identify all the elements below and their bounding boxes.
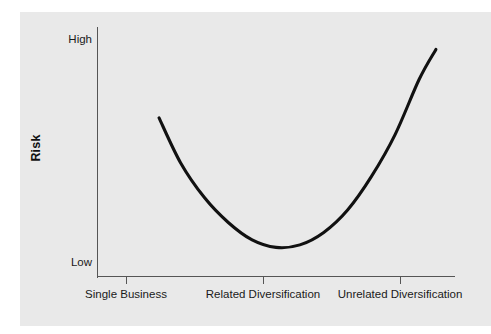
y-axis-title: Risk bbox=[29, 111, 43, 185]
y-tick-label-high: High bbox=[40, 33, 92, 45]
x-tick-mark-related-diversification bbox=[263, 277, 264, 284]
x-tick-label-unrelated-diversification: Unrelated Diversification bbox=[338, 288, 463, 301]
chart-figure: High Low Risk Single Business Related Di… bbox=[0, 0, 491, 334]
x-tick-mark-unrelated-diversification bbox=[400, 277, 401, 284]
x-tick-label-related-diversification: Related Diversification bbox=[206, 288, 320, 301]
y-axis-line bbox=[97, 27, 98, 278]
x-tick-label-single-business: Single Business bbox=[85, 288, 167, 301]
y-tick-label-low: Low bbox=[40, 256, 92, 268]
x-tick-mark-single-business bbox=[126, 277, 127, 284]
chart-panel bbox=[20, 12, 491, 326]
